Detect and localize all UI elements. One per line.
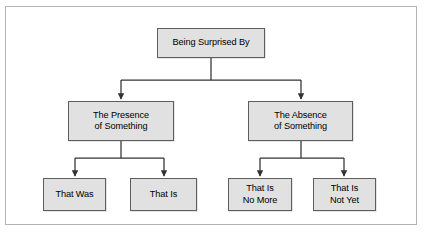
node-presence-line2: of Something — [95, 121, 148, 131]
node-absence-line2: of Something — [274, 121, 327, 131]
node-being-surprised-by: Being Surprised By — [157, 28, 265, 58]
node-no-more-line2: No More — [243, 195, 278, 205]
node-absence-label: The Absence of Something — [271, 110, 330, 133]
node-that-is-not-yet: That Is Not Yet — [313, 178, 376, 211]
node-absence-line1: The Absence — [274, 110, 327, 120]
node-the-absence-of-something: The Absence of Something — [248, 101, 353, 141]
node-that-is-no-more: That Is No More — [228, 178, 292, 211]
node-root-label: Being Surprised By — [170, 37, 253, 49]
diagram-canvas: Being Surprised By The Presence of Somet… — [0, 0, 424, 232]
node-not-yet-line2: Not Yet — [330, 195, 359, 205]
node-that-was-label: That Was — [52, 189, 96, 201]
node-presence-line1: The Presence — [93, 110, 149, 120]
node-no-more-label: That Is No More — [240, 183, 281, 206]
cropped-text-bleed — [0, 0, 424, 5]
node-not-yet-line1: That Is — [331, 183, 358, 193]
node-that-is: That Is — [130, 178, 197, 211]
node-that-was: That Was — [43, 178, 106, 211]
node-the-presence-of-something: The Presence of Something — [68, 101, 174, 141]
node-that-is-label: That Is — [147, 189, 180, 201]
node-no-more-line1: That Is — [246, 183, 273, 193]
node-presence-label: The Presence of Something — [90, 110, 152, 133]
node-not-yet-label: That Is Not Yet — [327, 183, 362, 206]
